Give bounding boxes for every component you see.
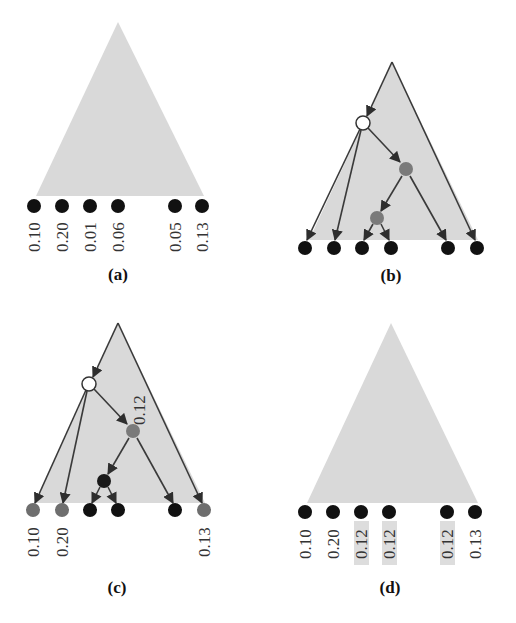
- internal-node: [97, 474, 111, 488]
- leaf-node: [55, 199, 69, 213]
- leaf-node-gray: [197, 503, 211, 517]
- root-query-node: [356, 116, 370, 130]
- subtree-triangle: [36, 22, 204, 196]
- leaf-value: 0.13: [466, 529, 485, 559]
- leaf-node: [382, 505, 396, 519]
- panel-label: (a): [108, 265, 128, 284]
- leaf-value: 0.13: [195, 527, 214, 557]
- leaf-node: [111, 199, 125, 213]
- leaf-value: 0.05: [166, 222, 185, 252]
- leaf-node: [111, 503, 125, 517]
- leaf-node: [327, 241, 341, 255]
- leaf-value: 0.10: [25, 222, 44, 252]
- leaf-node: [298, 505, 312, 519]
- root-query-node: [82, 377, 96, 391]
- leaf-node: [440, 505, 454, 519]
- leaf-node: [468, 505, 482, 519]
- panel-label: (b): [381, 266, 402, 285]
- internal-node: [399, 162, 413, 176]
- leaf-node: [441, 241, 455, 255]
- leaf-node: [195, 199, 209, 213]
- leaf-node: [470, 241, 484, 255]
- internal-value: 0.12: [130, 395, 149, 425]
- leaf-node-gray: [55, 503, 69, 517]
- leaf-nodes: [27, 199, 209, 213]
- tree-figure: 0.10 0.20 0.01 0.06 0.05 0.13 (a) (b): [0, 0, 516, 623]
- leaf-node: [326, 505, 340, 519]
- panel-b: (b): [298, 62, 484, 285]
- subtree-triangle: [35, 323, 205, 503]
- leaf-node: [27, 199, 41, 213]
- leaf-node-gray: [26, 503, 40, 517]
- leaf-value: 0.01: [81, 222, 100, 252]
- panel-label: (d): [380, 578, 401, 597]
- panel-d: 0.10 0.20 0.12 0.12 0.12 0.13 (d): [296, 323, 485, 597]
- leaf-value: 0.10: [296, 529, 315, 559]
- leaf-node: [168, 503, 182, 517]
- leaf-value: 0.10: [24, 527, 43, 557]
- leaf-value: 0.13: [193, 222, 212, 252]
- leaf-node: [168, 199, 182, 213]
- leaf-node: [83, 503, 97, 517]
- leaf-value-highlighted: 0.12: [380, 529, 399, 559]
- leaf-value-highlighted: 0.12: [352, 529, 371, 559]
- leaf-node: [298, 241, 312, 255]
- leaf-node: [384, 241, 398, 255]
- subtree-triangle: [309, 62, 478, 240]
- leaf-node: [83, 199, 97, 213]
- leaf-value-highlighted: 0.12: [438, 529, 457, 559]
- leaf-value: 0.20: [53, 527, 72, 557]
- internal-node-aggregated: [126, 424, 140, 438]
- panel-label: (c): [108, 578, 127, 597]
- leaf-value: 0.20: [324, 529, 343, 559]
- leaf-node: [354, 505, 368, 519]
- leaf-value: 0.06: [109, 222, 128, 252]
- leaf-value: 0.20: [53, 222, 72, 252]
- subtree-triangle: [307, 323, 478, 503]
- panel-c: 0.12 0.10 0.20 0.13 (c): [24, 323, 214, 597]
- leaf-node: [355, 241, 369, 255]
- internal-node: [370, 211, 384, 225]
- panel-a: 0.10 0.20 0.01 0.06 0.05 0.13 (a): [25, 22, 212, 284]
